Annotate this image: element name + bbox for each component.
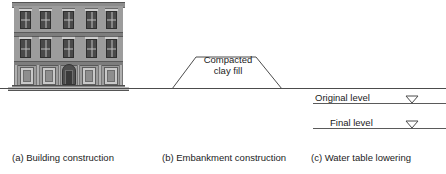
ground-window-1 (20, 67, 34, 85)
water-table-triangle-icon-original (405, 95, 419, 104)
ground-window-4 (104, 67, 118, 85)
original-level-label: Original level (315, 92, 370, 103)
entrance-doorway (62, 64, 76, 85)
window-top-3 (63, 11, 74, 29)
window-hood-top-3 (62, 8, 75, 11)
window-hood-mid-5 (105, 36, 118, 39)
window-top-4 (86, 11, 97, 29)
figure-canvas: Compacted clay fill Original level Final… (0, 0, 446, 174)
window-top-1 (20, 11, 31, 29)
embankment-fill-label-line2: clay fill (214, 65, 243, 76)
window-hood-top-5 (105, 8, 118, 11)
window-mid-4 (86, 39, 97, 58)
ground-window-3-pane (85, 70, 93, 82)
caption-b: (b) Embankment construction (162, 152, 286, 163)
window-mid-2 (40, 39, 51, 58)
ground-window-1-pane (23, 70, 31, 82)
window-top-2 (40, 11, 51, 29)
ground-window-4-pane (107, 70, 115, 82)
window-top-5 (106, 11, 117, 29)
window-hood-mid-2 (39, 36, 52, 39)
window-hood-top-2 (39, 8, 52, 11)
ground-window-2 (42, 67, 56, 85)
pilaster-3 (58, 65, 61, 85)
window-hood-mid-4 (85, 36, 98, 39)
pilaster-1 (14, 65, 18, 85)
caption-c: (c) Water table lowering (311, 152, 411, 163)
final-level-label: Final level (330, 117, 373, 128)
window-hood-mid-3 (62, 36, 75, 39)
embankment-fill-label-line1: Compacted (204, 54, 253, 65)
pilaster-6 (119, 65, 123, 85)
building-body (14, 6, 123, 85)
window-mid-5 (106, 39, 117, 58)
window-mid-3 (63, 39, 74, 58)
embankment-fill-label: Compacted clay fill (193, 54, 263, 76)
ground-window-3 (82, 67, 96, 85)
caption-a: (a) Building construction (12, 152, 114, 163)
window-hood-mid-1 (19, 36, 32, 39)
original-level-line (313, 103, 446, 104)
final-level-line (313, 128, 446, 129)
building-facade (12, 2, 125, 87)
window-mid-1 (20, 39, 31, 58)
ground-window-2-pane (45, 70, 53, 82)
window-hood-top-1 (19, 8, 32, 11)
pilaster-4 (77, 65, 80, 85)
water-table-triangle-icon-final (405, 120, 419, 129)
pilaster-5 (98, 65, 102, 85)
window-hood-top-4 (85, 8, 98, 11)
entrance-door-panel (65, 70, 73, 84)
pilaster-2 (36, 65, 40, 85)
